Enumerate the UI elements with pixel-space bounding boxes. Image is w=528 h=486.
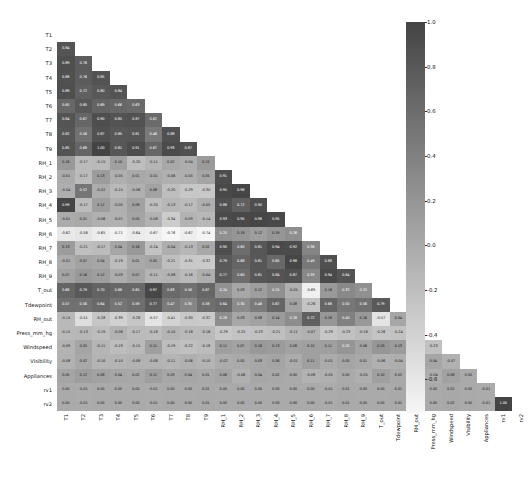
heatmap-cell: -0.30: [180, 312, 198, 326]
heatmap-cell: 0.00: [57, 397, 75, 411]
heatmap-cell: -0.06: [180, 354, 198, 368]
heatmap-cell: -0.20: [162, 184, 180, 198]
heatmap-cell-masked: [460, 255, 478, 269]
colorbar-tick-mark: [425, 245, 427, 246]
colorbar-tick-mark: [425, 67, 427, 68]
heatmap-cell: 0.00: [110, 383, 128, 397]
heatmap-cell: 0.95: [232, 212, 250, 226]
heatmap-cell: 0.00: [162, 383, 180, 397]
heatmap-cell-masked: [477, 142, 495, 156]
heatmap-cell: 0.47: [162, 298, 180, 312]
heatmap-cell: -0.15: [57, 312, 75, 326]
heatmap-cell-masked: [215, 113, 233, 127]
heatmap-cell: 0.11: [215, 340, 233, 354]
heatmap-cell: 0.26: [285, 227, 303, 241]
heatmap-cell-masked: [372, 212, 390, 226]
heatmap-cell: 0.30: [232, 298, 250, 312]
heatmap-cell-masked: [495, 42, 513, 56]
heatmap-cell: 0.01: [75, 212, 93, 226]
heatmap-cell: 0.89: [57, 85, 75, 99]
heatmap-cell: -0.14: [197, 212, 215, 226]
heatmap-cell-masked: [390, 255, 408, 269]
heatmap-cell: -0.17: [75, 156, 93, 170]
y-tick-label: T7: [0, 113, 55, 127]
heatmap-cell-masked: [372, 142, 390, 156]
heatmap-cell: -0.08: [57, 354, 75, 368]
heatmap-cell: -0.04: [57, 184, 75, 198]
heatmap-cell-masked: [355, 142, 373, 156]
x-tick-label: rv1: [500, 414, 506, 423]
heatmap-cell-masked: [127, 28, 145, 42]
heatmap-cell: -0.01: [57, 170, 75, 184]
heatmap-cell-masked: [180, 99, 198, 113]
heatmap-cell-masked: [477, 156, 495, 170]
colorbar-tick-mark: [425, 379, 427, 380]
heatmap-cell: -0.08: [162, 269, 180, 283]
colorbar-tick-mark: [425, 22, 427, 23]
y-tick-label: T3: [0, 56, 55, 70]
heatmap-cell-masked: [355, 255, 373, 269]
heatmap-row: -0.15-0.13-0.19-0.08-0.17-0.18-0.10-0.16…: [57, 326, 528, 340]
heatmap-cell: 0.92: [285, 241, 303, 255]
x-tick-label-slot: T4: [110, 412, 128, 482]
heatmap-cell-masked: [250, 56, 268, 70]
heatmap-cell: 0.87: [92, 127, 110, 141]
heatmap-cell-masked: [512, 255, 528, 269]
x-tick-label-slot: rv1: [495, 412, 513, 482]
heatmap-cell-masked: [162, 85, 180, 99]
heatmap-cell-masked: [372, 198, 390, 212]
heatmap-cell: 0.68: [57, 283, 75, 297]
heatmap-cell-masked: [127, 42, 145, 56]
heatmap-cell-masked: [460, 99, 478, 113]
heatmap-cell: 0.52: [75, 184, 93, 198]
heatmap-cell: 0.00: [285, 369, 303, 383]
heatmap-cell: -0.58: [75, 227, 93, 241]
heatmap-cell-masked: [512, 397, 528, 411]
heatmap-cell: -0.67: [145, 227, 163, 241]
heatmap-cell: -0.17: [180, 198, 198, 212]
heatmap-cell-masked: [495, 298, 513, 312]
heatmap-cell-masked: [250, 99, 268, 113]
heatmap-cell: 0.80: [92, 85, 110, 99]
x-tick-label-slot: RH_out: [407, 412, 425, 482]
heatmap-cell: 0.56: [75, 298, 93, 312]
heatmap-cell: -0.24: [145, 241, 163, 255]
heatmap-cell: 0.09: [127, 198, 145, 212]
heatmap-cell-masked: [372, 99, 390, 113]
heatmap-cell: 0.79: [215, 255, 233, 269]
heatmap-cell: -0.64: [127, 227, 145, 241]
heatmap-cell-masked: [495, 255, 513, 269]
heatmap-cell: 0.19: [372, 340, 390, 354]
heatmap-cell-masked: [267, 142, 285, 156]
heatmap-cell: 0.50: [337, 298, 355, 312]
heatmap-cell-masked: [337, 28, 355, 42]
heatmap-cell-masked: [495, 326, 513, 340]
heatmap-cell: 0.07: [232, 340, 250, 354]
heatmap-cell: 0.00: [302, 383, 320, 397]
x-tick-label: RH_out: [413, 414, 419, 433]
heatmap-cell-masked: [267, 28, 285, 42]
heatmap-cell-masked: [390, 170, 408, 184]
heatmap-cell-masked: [285, 156, 303, 170]
heatmap-cell-masked: [390, 212, 408, 226]
heatmap-cell: -0.71: [110, 227, 128, 241]
heatmap-cell-masked: [495, 227, 513, 241]
heatmap-cell-masked: [372, 28, 390, 42]
heatmap-cell: 0.12: [250, 227, 268, 241]
heatmap-cell: -0.05: [197, 198, 215, 212]
heatmap-cell-masked: [337, 170, 355, 184]
heatmap-cell: -0.10: [110, 354, 128, 368]
heatmap-cell: 0.25: [215, 227, 233, 241]
x-tick-label-slot: RH_2: [232, 412, 250, 482]
heatmap-cell-masked: [337, 127, 355, 141]
y-tick-label: T9: [0, 142, 55, 156]
heatmap-cell: -0.11: [285, 326, 303, 340]
heatmap-cell: 0.05: [197, 170, 215, 184]
heatmap-cell: -0.29: [320, 326, 338, 340]
heatmap-cell-masked: [460, 156, 478, 170]
heatmap-cell-masked: [320, 42, 338, 56]
heatmap-row: -0.090.05-0.11-0.19-0.150.11-0.19-0.22-0…: [57, 340, 528, 354]
heatmap-cell: 0.00: [355, 383, 373, 397]
heatmap-cell-masked: [302, 71, 320, 85]
